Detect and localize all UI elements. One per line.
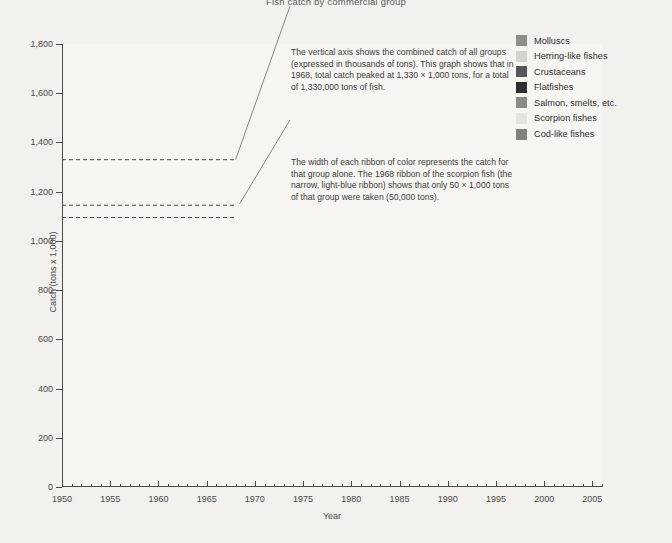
x-tick-label: 1990 — [438, 494, 458, 504]
legend-item-label: Cod-like fishes — [534, 129, 594, 139]
x-tick-minor — [139, 484, 140, 488]
x-tick-minor — [457, 484, 458, 488]
x-tick-minor — [216, 484, 217, 488]
y-tick — [56, 44, 62, 45]
x-tick-major — [592, 481, 593, 487]
chart-legend: MolluscsHerring-like fishesCrustaceansFl… — [516, 34, 617, 141]
y-tick — [56, 438, 62, 439]
x-tick-minor — [438, 484, 439, 488]
x-tick-minor — [361, 484, 362, 488]
page-title: Fish catch by commercial group — [0, 0, 672, 8]
x-axis-title: Year — [62, 511, 602, 521]
x-tick-minor — [187, 484, 188, 488]
legend-swatch-icon — [516, 66, 527, 77]
x-tick-minor — [342, 484, 343, 488]
legend-item-label: Crustaceans — [534, 67, 586, 77]
x-tick-major — [303, 481, 304, 487]
legend-swatch-icon — [516, 113, 527, 124]
y-axis-line — [62, 44, 63, 487]
x-tick-major — [448, 481, 449, 487]
x-tick-label: 2000 — [534, 494, 554, 504]
legend-item-label: Scorpion fishes — [534, 113, 597, 123]
y-tick — [56, 389, 62, 390]
x-tick-minor — [149, 484, 150, 488]
legend-item-molluscs[interactable]: Molluscs — [516, 34, 617, 47]
x-tick-minor — [274, 484, 275, 488]
x-tick-major — [110, 481, 111, 487]
annotation-peak-total: The vertical axis shows the combined cat… — [291, 47, 515, 93]
y-tick — [56, 290, 62, 291]
x-tick-label: 1965 — [197, 494, 217, 504]
x-tick-minor — [467, 484, 468, 488]
x-tick-minor — [486, 484, 487, 488]
y-tick-label: 0 — [48, 482, 53, 492]
x-tick-minor — [332, 484, 333, 488]
x-tick-minor — [293, 484, 294, 488]
y-tick — [56, 142, 62, 143]
y-tick-label: 1,400 — [30, 137, 53, 147]
x-tick-minor — [525, 484, 526, 488]
x-tick-minor — [371, 484, 372, 488]
x-tick-label: 1975 — [293, 494, 313, 504]
legend-swatch-icon — [516, 35, 527, 46]
annotation-ribbon-width: The width of each ribbon of color repres… — [291, 157, 515, 203]
legend-item-label: Herring-like fishes — [534, 51, 608, 61]
y-tick — [56, 487, 62, 488]
x-tick-minor — [563, 484, 564, 488]
x-tick-minor — [168, 484, 169, 488]
y-tick — [56, 93, 62, 94]
legend-item-label: Molluscs — [534, 36, 570, 46]
x-tick-label: 2005 — [582, 494, 602, 504]
x-tick-minor — [380, 484, 381, 488]
legend-item-scorpion-fishes[interactable]: Scorpion fishes — [516, 112, 617, 125]
x-tick-minor — [428, 484, 429, 488]
x-tick-major — [62, 481, 63, 487]
legend-item-crustaceans[interactable]: Crustaceans — [516, 65, 617, 78]
x-tick-minor — [197, 484, 198, 488]
x-tick-major — [400, 481, 401, 487]
x-tick-minor — [554, 484, 555, 488]
x-tick-minor — [120, 484, 121, 488]
x-tick-minor — [419, 484, 420, 488]
y-tick-label: 800 — [38, 285, 53, 295]
x-tick-major — [255, 481, 256, 487]
x-tick-minor — [583, 484, 584, 488]
x-tick-label: 1970 — [245, 494, 265, 504]
y-tick-label: 200 — [38, 433, 53, 443]
y-tick-label: 1,600 — [30, 88, 53, 98]
y-tick-label: 1,800 — [30, 39, 53, 49]
x-tick-minor — [226, 484, 227, 488]
legend-item-flatfishes[interactable]: Flatfishes — [516, 81, 617, 94]
x-tick-minor — [265, 484, 266, 488]
x-tick-minor — [130, 484, 131, 488]
x-tick-minor — [313, 484, 314, 488]
x-tick-minor — [390, 484, 391, 488]
x-tick-label: 1960 — [148, 494, 168, 504]
x-tick-major — [351, 481, 352, 487]
x-tick-major — [496, 481, 497, 487]
legend-swatch-icon — [516, 129, 527, 140]
legend-item-salmon-smelts-etc[interactable]: Salmon, smelts, etc. — [516, 96, 617, 109]
legend-swatch-icon — [516, 82, 527, 93]
legend-swatch-icon — [516, 51, 527, 62]
x-tick-minor — [101, 484, 102, 488]
x-tick-minor — [322, 484, 323, 488]
y-tick-label: 1,200 — [30, 187, 53, 197]
x-tick-label: 1985 — [389, 494, 409, 504]
x-tick-major — [207, 481, 208, 487]
legend-item-herring-like-fishes[interactable]: Herring-like fishes — [516, 50, 617, 63]
y-tick — [56, 192, 62, 193]
y-tick — [56, 339, 62, 340]
x-tick-minor — [284, 484, 285, 488]
x-tick-minor — [81, 484, 82, 488]
x-tick-minor — [236, 484, 237, 488]
y-tick-label: 400 — [38, 384, 53, 394]
y-tick-label: 1,000 — [30, 236, 53, 246]
x-tick-minor — [72, 484, 73, 488]
x-tick-minor — [178, 484, 179, 488]
x-tick-minor — [506, 484, 507, 488]
x-tick-major — [544, 481, 545, 487]
x-tick-label: 1955 — [100, 494, 120, 504]
legend-item-cod-like-fishes[interactable]: Cod-like fishes — [516, 128, 617, 141]
y-tick-label: 600 — [38, 334, 53, 344]
